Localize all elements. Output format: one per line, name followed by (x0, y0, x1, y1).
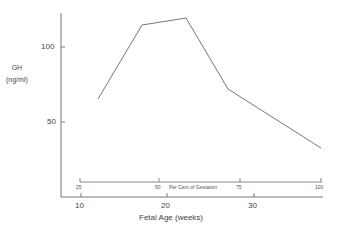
x-tick-label-10: 10 (75, 201, 84, 210)
x-tick-label-20: 20 (161, 201, 170, 210)
pct-tick-label-75: 75 (236, 184, 242, 190)
gh-series-line (98, 18, 321, 148)
y-axis-label-line1: GH (6, 62, 28, 74)
chart-canvas (0, 0, 343, 226)
y-axis-label-line2: (ng/ml) (6, 74, 28, 86)
x-axis-title: Fetal Age (weeks) (139, 213, 203, 222)
secondary-x-axis-title: Per Cent of Gestation (169, 184, 217, 190)
pct-tick-label-100: 100 (315, 184, 323, 190)
x-tick-label-30: 30 (248, 201, 257, 210)
pct-tick-label-50: 50 (155, 184, 161, 190)
y-tick-label-100: 100 (41, 42, 54, 51)
y-tick-label-50: 50 (47, 117, 56, 126)
y-axis-label: GH (ng/ml) (6, 62, 28, 86)
pct-tick-label-25: 25 (76, 184, 82, 190)
